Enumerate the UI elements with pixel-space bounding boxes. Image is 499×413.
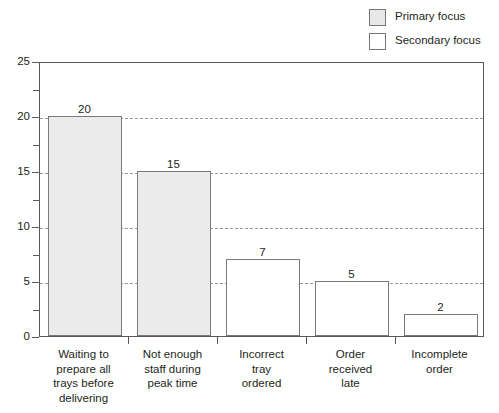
x-category-label-line: Not enough bbox=[128, 347, 217, 362]
x-tick bbox=[128, 337, 129, 344]
y-tick-major bbox=[32, 337, 39, 338]
x-category-label-line: peak time bbox=[128, 376, 217, 391]
bar-value-label: 7 bbox=[226, 247, 300, 259]
x-category-label-line: staff during bbox=[128, 362, 217, 377]
bar-value-label: 20 bbox=[48, 104, 122, 116]
x-category-label: Incompleteorder bbox=[395, 347, 484, 376]
chart-legend: Primary focusSecondary focus bbox=[369, 6, 493, 54]
x-tick bbox=[306, 337, 307, 344]
x-category-label-line: late bbox=[306, 376, 395, 391]
y-tick-label: 0 bbox=[24, 331, 30, 343]
x-category-label-line: Incomplete bbox=[395, 347, 484, 362]
plot-area: 2015752 bbox=[39, 62, 484, 337]
bar[interactable] bbox=[226, 259, 300, 336]
y-tick-major bbox=[32, 117, 39, 118]
legend-swatch-primary bbox=[369, 9, 386, 26]
x-category-label-line: received bbox=[306, 362, 395, 377]
y-tick-major bbox=[32, 172, 39, 173]
x-category-label-line: ordered bbox=[217, 376, 306, 391]
x-category-label: Not enoughstaff duringpeak time bbox=[128, 347, 217, 391]
x-category-label-line: Order bbox=[306, 347, 395, 362]
bar[interactable] bbox=[48, 116, 122, 336]
y-tick-major bbox=[32, 227, 39, 228]
bar-value-label: 15 bbox=[137, 159, 211, 171]
bar-value-label: 5 bbox=[315, 269, 389, 281]
legend-item[interactable]: Primary focus bbox=[369, 6, 493, 28]
y-tick-major bbox=[32, 62, 39, 63]
x-category-label-line: tray bbox=[217, 362, 306, 377]
y-tick-label: 20 bbox=[17, 111, 30, 123]
x-category-label-line: prepare all bbox=[39, 362, 128, 377]
bar[interactable] bbox=[137, 171, 211, 336]
y-tick-label: 10 bbox=[17, 221, 30, 233]
x-category-label-line: order bbox=[395, 362, 484, 377]
x-category-label-line: delivering bbox=[39, 391, 128, 406]
x-category-label: Waiting toprepare alltrays beforedeliver… bbox=[39, 347, 128, 405]
y-tick-label: 5 bbox=[24, 276, 30, 288]
x-category-label: Orderreceivedlate bbox=[306, 347, 395, 391]
x-category-label: Incorrecttrayordered bbox=[217, 347, 306, 391]
legend-swatch-secondary bbox=[369, 33, 386, 50]
x-tick bbox=[395, 337, 396, 344]
x-tick bbox=[217, 337, 218, 344]
legend-label: Primary focus bbox=[395, 11, 465, 23]
x-category-label-line: trays before bbox=[39, 376, 128, 391]
x-category-label-line: Waiting to bbox=[39, 347, 128, 362]
y-tick-label: 25 bbox=[17, 56, 30, 68]
y-axis: 2520151050 bbox=[0, 0, 39, 413]
legend-label: Secondary focus bbox=[395, 35, 481, 47]
x-category-label-line: Incorrect bbox=[217, 347, 306, 362]
y-tick-label: 15 bbox=[17, 166, 30, 178]
legend-item[interactable]: Secondary focus bbox=[369, 30, 493, 52]
bar[interactable] bbox=[404, 314, 478, 336]
bar-chart: Primary focusSecondary focus 2520151050 … bbox=[0, 0, 499, 413]
y-tick-major bbox=[32, 282, 39, 283]
bar-value-label: 2 bbox=[404, 302, 478, 314]
bar[interactable] bbox=[315, 281, 389, 336]
